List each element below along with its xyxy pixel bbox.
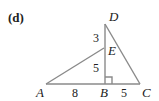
figure-tag: (d) (8, 10, 24, 25)
length-AB: 8 (72, 86, 78, 100)
point-label-D: D (108, 9, 119, 24)
triangle-diagram: (d) D E A B C 3 5 8 5 (0, 0, 159, 101)
point-label-B: B (100, 85, 108, 100)
length-BC: 5 (121, 86, 127, 100)
point-label-A: A (35, 85, 44, 100)
point-label-E: E (107, 43, 116, 58)
length-DE: 3 (93, 31, 99, 45)
length-EB: 5 (93, 61, 99, 75)
right-angle-marker (105, 77, 112, 84)
point-label-C: C (142, 85, 151, 100)
